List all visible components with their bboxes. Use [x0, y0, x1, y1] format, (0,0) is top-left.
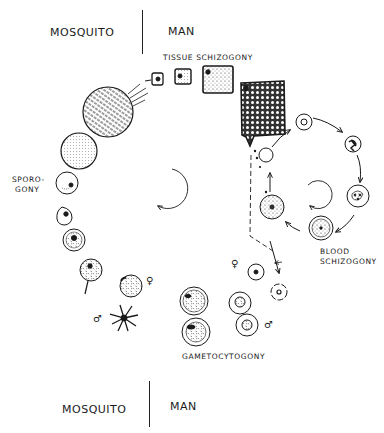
- young-gametocyte-1: [248, 264, 264, 280]
- young-gametocyte-2: [271, 284, 287, 300]
- rupturing-schizont: [260, 195, 284, 219]
- merozoite-rbc-empty: [259, 148, 273, 162]
- zygote: [63, 229, 85, 251]
- ookinete: [57, 207, 72, 225]
- tissue-schizont-mature: [241, 81, 285, 146]
- mature-gametocyte-1: [180, 287, 208, 315]
- early-schizont: [347, 185, 369, 207]
- tissue-stage-3: [203, 66, 233, 93]
- male-exflagellation: [110, 305, 138, 331]
- female-gametocyte-developing: [229, 292, 251, 314]
- ring-stage: [296, 114, 312, 130]
- mature-schizont: [309, 216, 333, 240]
- footer-host-divider: [149, 381, 150, 427]
- oocyst-stippled: [61, 133, 97, 169]
- tissue-stage-1: [152, 73, 163, 85]
- female-macrogamete: [120, 275, 142, 297]
- malaria-life-cycle-diagram: [0, 0, 384, 433]
- macrogamete-fertilized: [80, 259, 102, 294]
- cycle-direction-arrow: [158, 169, 188, 209]
- male-gametocyte-developing: [236, 314, 258, 336]
- sporozoite-rupturing-oocyst: [83, 84, 148, 137]
- tissue-stage-2: [175, 69, 191, 84]
- footer-mosquito-label: MOSQUITO: [62, 403, 126, 416]
- oocyst-young: [56, 172, 78, 194]
- footer-man-label: MAN: [170, 400, 197, 413]
- mature-gametocyte-2: [182, 318, 210, 346]
- trophozoite: [345, 136, 361, 152]
